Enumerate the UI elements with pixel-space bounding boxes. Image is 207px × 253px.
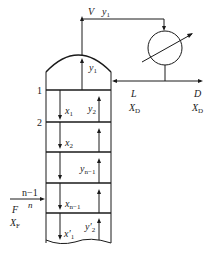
label-y1-top: y1	[101, 6, 110, 19]
label-XD-distillate: XD	[191, 102, 203, 115]
reflux-distillate-line	[112, 65, 203, 83]
label-F: F	[11, 204, 19, 215]
label-D: D	[193, 88, 202, 99]
label-y2: y2	[87, 103, 96, 116]
label-L: L	[130, 88, 137, 99]
labels: V y1 y1 1 2 x1 y2 x2 yn−1 xn−1 x′1 y′2 L…	[9, 6, 203, 241]
condenser-icon	[142, 31, 193, 65]
label-feed-n-minus-1: n−1	[22, 187, 38, 198]
label-xn-1: xn−1	[64, 198, 81, 211]
label-XF: XF	[9, 217, 20, 230]
label-x1: x1	[64, 105, 73, 118]
distillation-diagram: V y1 y1 1 2 x1 y2 x2 yn−1 xn−1 x′1 y′2 L…	[0, 0, 207, 253]
label-y1-dome: y1	[88, 62, 97, 75]
label-y2-prime: y′2	[84, 221, 96, 234]
tray-number-2: 2	[37, 117, 42, 128]
label-XD-reflux: XD	[128, 102, 140, 115]
column	[46, 55, 111, 244]
label-x1-prime: x′1	[63, 228, 75, 241]
tray-number-1: 1	[37, 85, 42, 96]
column-dome	[46, 55, 111, 72]
label-x2: x2	[64, 137, 73, 150]
column-break-line	[46, 239, 111, 243]
label-feed-n: n	[28, 200, 33, 210]
label-yn-1: yn−1	[79, 163, 96, 176]
label-V: V	[88, 6, 96, 17]
